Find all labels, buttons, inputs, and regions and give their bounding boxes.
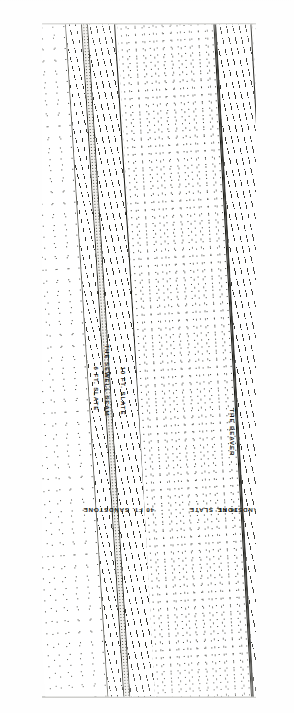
- stratum-label-beaver-seam: THE BEAVER: [229, 408, 236, 456]
- stratum-label-slate-6-upper: 6 FT. SLATE: [93, 366, 100, 411]
- cross-section-plate: 6 FT. SLATE THE SEWELL SEAM 10 FT. SLATE…: [0, 0, 294, 713]
- stratum-label-slate-10: 10 FT. SLATE: [120, 366, 127, 415]
- stratum-label-sandstone-30: 30 FT. SANDSTONE: [217, 506, 256, 513]
- stratum-label-sandstone-40: 40 FT. SANDSTONE: [83, 506, 154, 513]
- figure-page: Fig. 1 Drawing of Pocahontas Rogers N. Y…: [0, 0, 294, 713]
- stratum-label-sewell-seam: THE SEWELL SEAM: [104, 344, 111, 416]
- stratigraphic-column: 6 FT. SLATE THE SEWELL SEAM 10 FT. SLATE…: [42, 23, 256, 697]
